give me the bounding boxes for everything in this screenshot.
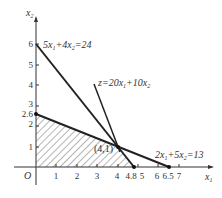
point-x-4-8: [132, 165, 136, 169]
optimum-point-label: (4,1): [94, 143, 113, 155]
point-optimum: [116, 145, 120, 149]
svg-text:2.6: 2.6: [22, 109, 34, 119]
x-axis-label: x1: [204, 171, 212, 183]
svg-text:6.5: 6.5: [162, 171, 174, 181]
svg-text:2: 2: [75, 171, 80, 181]
point-y-intercept: [34, 112, 38, 116]
svg-text:6: 6: [155, 171, 160, 181]
origin-label: O: [24, 170, 31, 181]
x-axis-arrow-icon: [208, 165, 214, 169]
svg-text:4.8: 4.8: [125, 171, 137, 181]
svg-text:1: 1: [29, 142, 34, 152]
x-tick-labels: 1 2 3 4 4.8 5 6 6.5 7: [54, 171, 182, 181]
svg-text:2: 2: [29, 119, 34, 129]
y-axis-label: x2: [25, 7, 33, 19]
svg-text:6: 6: [29, 39, 34, 49]
y-axis-arrow-icon: [34, 16, 38, 22]
svg-text:4: 4: [115, 171, 120, 181]
constraint-1-label: 5x1+4x2=24: [43, 39, 91, 51]
objective-label: z=20x1+10x2: [97, 77, 150, 89]
svg-text:5: 5: [29, 60, 34, 70]
y-tick-labels: 1 2 2.6 3 4 5 6: [22, 39, 34, 152]
point-x-6-5: [167, 165, 171, 169]
lp-diagram: x2 x1 O 1 2 2.6 3 4 5 6 1 2 3 4 4.8 5 6 …: [0, 0, 222, 198]
svg-text:3: 3: [95, 171, 100, 181]
constraint-2-label: 2x1+5x2=13: [155, 149, 203, 161]
feasible-region: [36, 114, 134, 167]
svg-text:1: 1: [54, 171, 59, 181]
svg-text:4: 4: [29, 80, 34, 90]
svg-text:7: 7: [177, 171, 182, 181]
svg-text:3: 3: [29, 99, 34, 109]
svg-text:5: 5: [140, 171, 145, 181]
